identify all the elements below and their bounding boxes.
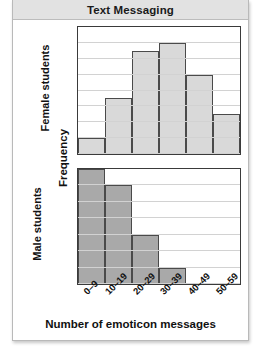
- page-title: Text Messaging: [87, 4, 174, 16]
- panel-female-label: Female students: [39, 42, 51, 134]
- gridline: [78, 184, 240, 185]
- chart-figure: Text Messaging Frequency Female students…: [12, 0, 249, 341]
- x-axis-title: Number of emoticon messages: [13, 318, 248, 330]
- x-tick-slot: 50–59: [216, 285, 244, 317]
- bar-slot: [159, 27, 186, 154]
- bar-female-0-9: [78, 138, 105, 154]
- gridline: [78, 90, 240, 91]
- chart-title-band: Text Messaging: [13, 0, 248, 20]
- gridline: [78, 74, 240, 75]
- bar-female-10-19: [105, 98, 132, 154]
- gridline: [78, 201, 240, 202]
- x-tick-slot: 30–39: [160, 285, 188, 317]
- gridline: [78, 137, 240, 138]
- gridline: [78, 58, 240, 59]
- gridline: [78, 26, 240, 27]
- bar-slot: [78, 27, 105, 154]
- x-tick-slot: 0–9: [77, 285, 105, 317]
- gridline: [78, 168, 240, 169]
- gridline: [78, 267, 240, 268]
- bar-slot: [105, 27, 132, 154]
- x-tick-slot: 40–49: [188, 285, 216, 317]
- panel-male-students: Male students 02468101214: [13, 168, 245, 285]
- x-axis-tick-labels: 0–910–1920–2930–3940–4950–59: [77, 285, 244, 317]
- gridline: [78, 153, 240, 154]
- panel-female-students: Female students 0246810121416: [13, 26, 245, 155]
- gridline: [78, 250, 240, 251]
- bar-slot: [186, 27, 213, 154]
- gridline: [78, 283, 240, 284]
- bar-female-20-29: [132, 51, 159, 154]
- plot-area-female: 0246810121416: [77, 26, 241, 155]
- gridline: [78, 121, 240, 122]
- bar-slot: [132, 27, 159, 154]
- bar-group-female: [78, 27, 240, 154]
- x-tick-slot: 20–29: [133, 285, 161, 317]
- gridline: [78, 234, 240, 235]
- gridline: [78, 105, 240, 106]
- x-tick-slot: 10–19: [105, 285, 133, 317]
- gridline: [78, 217, 240, 218]
- bar-slot: [213, 27, 240, 154]
- gridline: [78, 42, 240, 43]
- panel-male-label: Male students: [31, 182, 43, 266]
- plot-area-male: 02468101214: [77, 168, 241, 285]
- bar-female-40-49: [186, 75, 213, 154]
